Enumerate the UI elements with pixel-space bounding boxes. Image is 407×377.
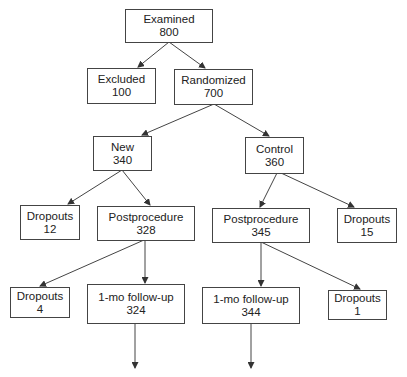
node-label: 1-mo follow-up bbox=[98, 291, 173, 304]
node-new-post-dropouts: Dropouts 4 bbox=[10, 287, 70, 318]
node-label: Control bbox=[256, 143, 293, 156]
node-label: Dropouts bbox=[344, 213, 391, 226]
node-label: Examined bbox=[143, 13, 194, 26]
node-label: New bbox=[111, 141, 134, 154]
node-excluded: Excluded 100 bbox=[87, 68, 156, 104]
node-value: 700 bbox=[204, 87, 223, 100]
node-value: 4 bbox=[37, 303, 43, 316]
node-value: 344 bbox=[241, 306, 260, 319]
node-value: 100 bbox=[112, 86, 131, 99]
node-control-postprocedure: Postprocedure 345 bbox=[212, 208, 310, 243]
node-value: 345 bbox=[251, 226, 270, 239]
node-value: 328 bbox=[136, 224, 155, 237]
node-examined: Examined 800 bbox=[125, 9, 213, 43]
node-control-post-dropouts: Dropouts 1 bbox=[328, 290, 387, 320]
node-new-followup: 1-mo follow-up 324 bbox=[87, 284, 185, 324]
node-value: 15 bbox=[361, 226, 374, 239]
node-label: Dropouts bbox=[27, 210, 74, 223]
node-label: Postprocedure bbox=[224, 213, 299, 226]
node-label: Postprocedure bbox=[109, 211, 184, 224]
node-value: 340 bbox=[113, 154, 132, 167]
node-label: Excluded bbox=[98, 73, 145, 86]
node-control-followup: 1-mo follow-up 344 bbox=[202, 287, 300, 324]
node-value: 12 bbox=[44, 223, 57, 236]
node-randomized: Randomized 700 bbox=[174, 69, 253, 105]
node-label: Randomized bbox=[181, 74, 246, 87]
node-label: 1-mo follow-up bbox=[213, 293, 288, 306]
node-new-dropouts: Dropouts 12 bbox=[20, 205, 80, 240]
node-value: 800 bbox=[159, 26, 178, 39]
node-new: New 340 bbox=[93, 136, 152, 171]
node-label: Dropouts bbox=[334, 292, 381, 305]
node-label: Dropouts bbox=[17, 290, 64, 303]
node-value: 324 bbox=[126, 304, 145, 317]
node-new-postprocedure: Postprocedure 328 bbox=[97, 206, 195, 241]
node-control-dropouts: Dropouts 15 bbox=[337, 208, 397, 243]
flow-diagram: Examined 800 Excluded 100 Randomized 700… bbox=[0, 0, 407, 377]
node-value: 1 bbox=[354, 305, 360, 318]
node-value: 360 bbox=[265, 156, 284, 169]
node-control: Control 360 bbox=[245, 137, 304, 174]
